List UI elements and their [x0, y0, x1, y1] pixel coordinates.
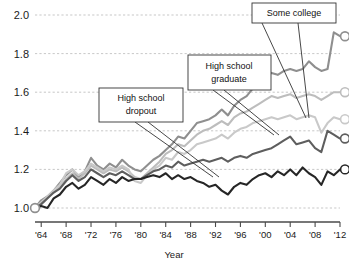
- callout-label-dropout-line1: High school: [117, 93, 164, 103]
- y-tick-label: 1.6: [14, 86, 29, 98]
- chart-canvas: 1.01.21.41.61.82.0 '64'68'72'76'80'84'88…: [0, 0, 349, 263]
- series-end-marker: [341, 115, 349, 124]
- x-axis-tick-labels: '64'68'72'76'80'84'88'92'96'00'04'08'12: [35, 229, 346, 240]
- x-axis-title: Year: [164, 249, 183, 260]
- callout-high-school-graduate: High school graduate: [188, 55, 279, 135]
- y-tick-label: 1.8: [14, 48, 29, 60]
- leader-line-dropout: [135, 122, 213, 177]
- y-tick-label: 1.4: [14, 125, 29, 137]
- series-end-marker: [341, 165, 349, 174]
- callout-label-dropout-line2: dropout: [126, 106, 157, 116]
- callout-label-college: Some college: [267, 8, 322, 18]
- y-tick-label: 1.0: [14, 202, 29, 214]
- x-tick-label: '00: [259, 229, 271, 240]
- x-tick-label: '76: [110, 229, 122, 240]
- callout-label-graduate-line2: graduate: [211, 74, 247, 84]
- callout-annotations: High school dropout High school graduate…: [99, 3, 336, 177]
- series-lines: [35, 32, 340, 208]
- x-tick-label: '68: [60, 229, 72, 240]
- y-tick-label: 2.0: [14, 9, 29, 21]
- x-tick-label: '12: [334, 229, 346, 240]
- y-axis-tick-labels: 1.01.21.41.61.82.0: [14, 9, 29, 214]
- line-chart: 1.01.21.41.61.82.0 '64'68'72'76'80'84'88…: [0, 0, 349, 263]
- x-tick-label: '08: [309, 229, 321, 240]
- callout-label-graduate-line1: High school: [205, 61, 252, 71]
- x-tick-label: '84: [160, 229, 172, 240]
- x-tick-label: '96: [234, 229, 246, 240]
- x-axis: [35, 222, 340, 227]
- series-end-marker: [341, 88, 349, 97]
- y-tick-label: 1.2: [14, 163, 29, 175]
- series-end-marker: [341, 32, 349, 41]
- series-line: [35, 92, 340, 208]
- x-tick-label: '88: [184, 229, 196, 240]
- series-line: [35, 115, 340, 208]
- x-tick-label: '80: [135, 229, 147, 240]
- series-origin-marker: [31, 204, 40, 213]
- series-end-marker: [341, 134, 349, 143]
- series-line: [35, 32, 340, 208]
- x-tick-label: '04: [284, 229, 296, 240]
- x-tick-label: '64: [35, 229, 47, 240]
- x-tick-label: '72: [85, 229, 97, 240]
- x-tick-label: '92: [209, 229, 221, 240]
